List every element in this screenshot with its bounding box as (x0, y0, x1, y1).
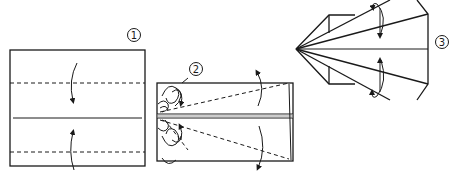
step-number: 3 (439, 37, 445, 48)
right-edge-layer (289, 84, 291, 160)
paper-square (10, 50, 145, 166)
origami-diagram: 1 2 (0, 0, 455, 192)
fold-back-top-arrow-icon (257, 72, 262, 106)
fold-down-arrow-icon (71, 63, 77, 101)
center-shadow (157, 114, 293, 118)
diagonal-fold-line-top (160, 83, 289, 112)
step-2-diagram: 2 (157, 63, 293, 169)
step-number-badge: 1 (128, 29, 141, 42)
radiating-lines (296, 0, 428, 100)
step-number: 1 (131, 30, 137, 41)
fold-up-arrow-icon (71, 132, 74, 170)
step-3-diagram: 3 (296, 0, 449, 100)
step-1-diagram: 1 (10, 29, 145, 171)
step-number: 2 (193, 64, 199, 75)
fold-back-bottom-arrow-icon (258, 126, 263, 168)
step-number-badge: 2 (190, 63, 203, 76)
step-number-badge: 3 (436, 36, 449, 49)
folded-rectangle (157, 83, 293, 161)
